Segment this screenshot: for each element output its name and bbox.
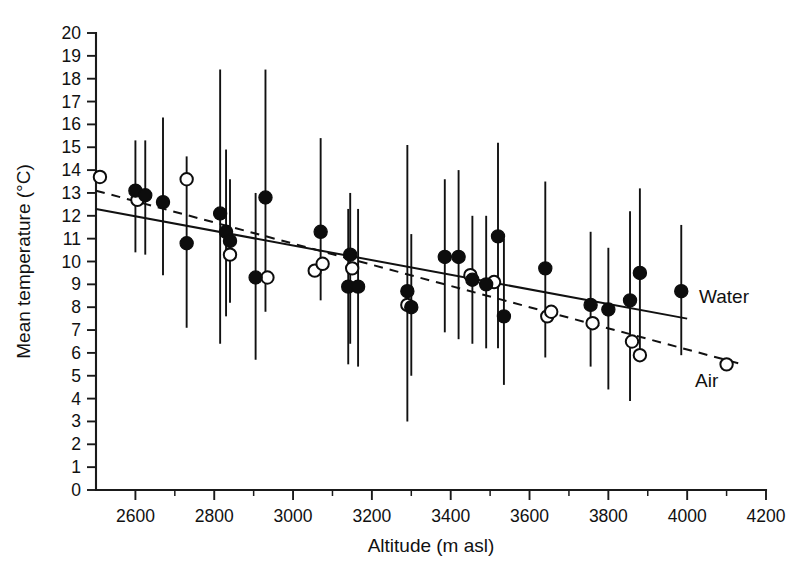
air-data-point bbox=[261, 271, 273, 283]
water-data-point bbox=[223, 234, 236, 247]
air-data-point bbox=[626, 335, 638, 347]
water-data-point bbox=[602, 303, 615, 316]
air-data-point bbox=[545, 306, 557, 318]
y-tick-label: 19 bbox=[62, 46, 81, 66]
water-data-point bbox=[314, 225, 327, 238]
water-data-point bbox=[539, 262, 552, 275]
scatter-plot: 0123456789101112131415161718192026002800… bbox=[0, 0, 802, 568]
water-data-point bbox=[214, 207, 227, 220]
water-data-point bbox=[633, 266, 646, 279]
x-axis-title: Altitude (m asl) bbox=[368, 535, 495, 556]
y-tick-label: 0 bbox=[71, 480, 81, 500]
water-data-point bbox=[139, 189, 152, 202]
water-data-point bbox=[584, 298, 597, 311]
water-data-point bbox=[401, 285, 414, 298]
water-regression-line bbox=[96, 209, 687, 319]
air-data-point bbox=[180, 173, 192, 185]
water-data-point bbox=[452, 250, 465, 263]
series-label-air: Air bbox=[695, 370, 719, 391]
x-tick-label: 4200 bbox=[747, 506, 786, 526]
water-data-point bbox=[405, 301, 418, 314]
y-tick-label: 12 bbox=[62, 206, 81, 226]
y-axis-title: Mean temperature (°C) bbox=[13, 164, 34, 359]
y-tick-label: 9 bbox=[71, 274, 81, 294]
water-data-point bbox=[156, 195, 169, 208]
y-tick-label: 3 bbox=[71, 411, 81, 431]
water-data-point bbox=[491, 230, 504, 243]
y-tick-label: 15 bbox=[62, 137, 81, 157]
air-data-point bbox=[224, 248, 236, 260]
air-data-point bbox=[720, 358, 732, 370]
y-tick-label: 17 bbox=[62, 92, 81, 112]
water-data-point bbox=[344, 248, 357, 261]
x-tick-label: 3200 bbox=[352, 506, 391, 526]
water-data-point bbox=[466, 273, 479, 286]
y-tick-label: 8 bbox=[71, 297, 81, 317]
x-tick-label: 4000 bbox=[668, 506, 707, 526]
water-data-point bbox=[623, 294, 636, 307]
y-tick-label: 20 bbox=[62, 23, 82, 43]
water-data-point bbox=[180, 237, 193, 250]
water-data-point bbox=[497, 310, 510, 323]
water-data-point bbox=[480, 278, 493, 291]
air-data-point bbox=[586, 317, 598, 329]
air-data-point bbox=[346, 262, 358, 274]
y-tick-label: 5 bbox=[71, 366, 81, 386]
water-data-point bbox=[249, 271, 262, 284]
y-tick-label: 16 bbox=[62, 114, 81, 134]
y-tick-label: 13 bbox=[62, 183, 81, 203]
x-tick-label: 3000 bbox=[274, 506, 313, 526]
y-tick-label: 11 bbox=[63, 229, 81, 249]
air-data-point bbox=[634, 349, 646, 361]
series-label-water: Water bbox=[699, 286, 750, 307]
y-tick-label: 1 bbox=[71, 457, 81, 477]
y-tick-label: 2 bbox=[71, 434, 81, 454]
water-data-point bbox=[438, 250, 451, 263]
y-tick-label: 10 bbox=[62, 252, 82, 272]
y-tick-label: 14 bbox=[62, 160, 82, 180]
air-data-point bbox=[94, 171, 106, 183]
x-tick-label: 3400 bbox=[431, 506, 470, 526]
air-data-point bbox=[316, 258, 328, 270]
x-tick-label: 2600 bbox=[116, 506, 155, 526]
chart-figure: 0123456789101112131415161718192026002800… bbox=[0, 0, 802, 568]
y-tick-label: 18 bbox=[62, 69, 81, 89]
y-tick-label: 7 bbox=[71, 320, 81, 340]
y-tick-label: 6 bbox=[71, 343, 81, 363]
water-data-point bbox=[351, 280, 364, 293]
water-data-point bbox=[675, 285, 688, 298]
x-tick-label: 3800 bbox=[589, 506, 628, 526]
x-tick-label: 3600 bbox=[510, 506, 549, 526]
x-tick-label: 2800 bbox=[195, 506, 234, 526]
water-data-point bbox=[259, 191, 272, 204]
y-tick-label: 4 bbox=[71, 389, 81, 409]
